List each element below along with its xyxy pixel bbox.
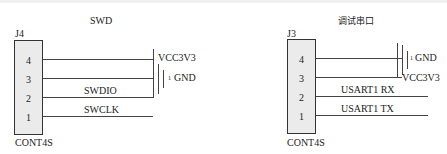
uart-gnd-bar-1 xyxy=(402,45,403,75)
uart-connector-body: 4 3 2 1 xyxy=(287,39,316,134)
uart-rx-label: USART1 RX xyxy=(341,85,395,95)
swd-gnd-bar-1 xyxy=(158,64,159,94)
swd-pin-1: 1 xyxy=(15,112,42,123)
swd-wire-2 xyxy=(43,97,153,98)
swd-pin-2: 2 xyxy=(15,93,42,104)
uart-wire-4 xyxy=(316,58,402,59)
uart-part: CONT4S xyxy=(287,138,325,148)
swd-pin-3: 3 xyxy=(15,74,42,85)
swd-ref: J4 xyxy=(15,29,24,39)
swd-wire-4 xyxy=(43,59,153,60)
uart-pin-1: 1 xyxy=(288,111,315,122)
uart-vcc-label: VCC3V3 xyxy=(402,73,440,83)
swd-swclk-label: SWCLK xyxy=(84,105,119,115)
uart-wire-2 xyxy=(316,96,428,97)
uart-pin-4: 4 xyxy=(288,54,315,65)
uart-gnd-marker: 1 xyxy=(410,55,413,61)
uart-vcc-bus xyxy=(397,43,398,78)
uart-wire-3 xyxy=(316,77,402,78)
swd-wire-3 xyxy=(43,78,153,79)
swd-gnd-label: GND xyxy=(174,73,196,83)
top-strip xyxy=(0,0,447,3)
swd-vcc-bus xyxy=(153,49,154,98)
uart-gnd-bar-2 xyxy=(407,51,408,69)
swd-gnd-bar-2 xyxy=(163,70,164,88)
uart-ref: J3 xyxy=(287,29,296,39)
uart-pin-2: 2 xyxy=(288,92,315,103)
swd-gnd-marker: 1 xyxy=(168,75,171,81)
swd-wire-1 xyxy=(43,116,153,117)
uart-pin-3: 3 xyxy=(288,73,315,84)
swd-title: SWD xyxy=(90,16,112,26)
swd-pin-4: 4 xyxy=(15,55,42,66)
uart-wire-1 xyxy=(316,115,428,116)
uart-title: 调试串口 xyxy=(338,16,374,26)
swd-vcc-label: VCC3V3 xyxy=(158,53,196,63)
swd-part: CONT4S xyxy=(15,138,53,148)
uart-tx-label: USART1 TX xyxy=(341,104,394,114)
swd-swdio-label: SWDIO xyxy=(84,86,117,96)
swd-connector-body: 4 3 2 1 xyxy=(14,40,43,135)
uart-gnd-label: GND xyxy=(415,53,437,63)
